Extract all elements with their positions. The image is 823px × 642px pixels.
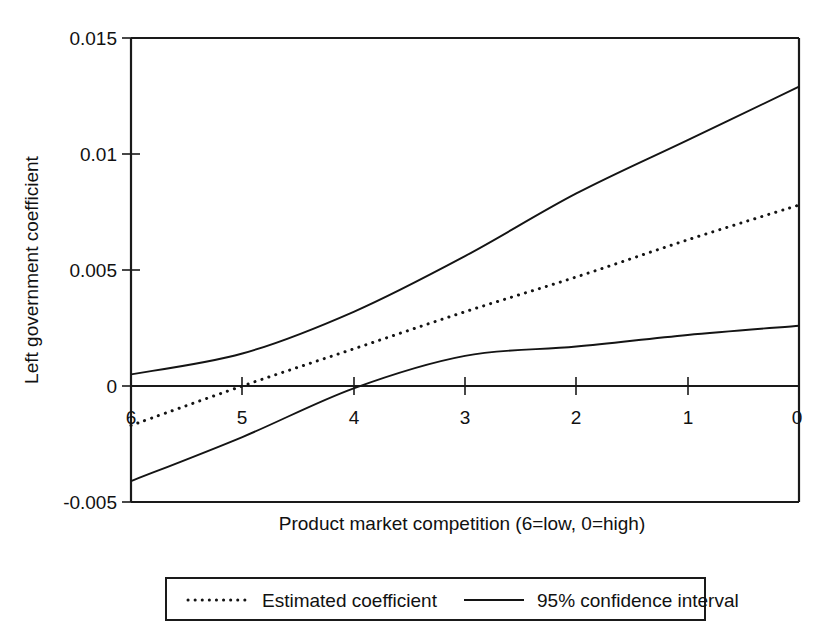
- y-ticklabel-3: 0: [106, 376, 117, 397]
- chart-figure: 0.015 0.01 0.005 0 -0.005 6 5 4 3 2 1 0: [0, 0, 823, 642]
- y-ticklabel-4: -0.005: [63, 492, 117, 513]
- x-ticklabel-0: 0: [792, 407, 803, 428]
- legend-label-confidence-interval: 95% confidence interval: [537, 590, 739, 611]
- x-ticklabel-1: 1: [683, 407, 694, 428]
- y-ticklabel-2: 0.005: [69, 260, 117, 281]
- chart-svg: 0.015 0.01 0.005 0 -0.005 6 5 4 3 2 1 0: [0, 0, 823, 642]
- x-axis-title: Product market competition (6=low, 0=hig…: [279, 513, 645, 534]
- x-ticklabel-3: 3: [460, 407, 471, 428]
- y-axis-title: Left government coefficient: [21, 155, 42, 384]
- legend-label-estimated-coefficient: Estimated coefficient: [262, 590, 438, 611]
- y-ticklabel-0: 0.015: [69, 28, 117, 49]
- x-ticklabel-4: 4: [349, 407, 360, 428]
- x-ticklabel-2: 2: [571, 407, 582, 428]
- y-ticklabel-1: 0.01: [80, 144, 117, 165]
- x-ticklabel-5: 5: [237, 407, 248, 428]
- chart-background: [0, 0, 823, 642]
